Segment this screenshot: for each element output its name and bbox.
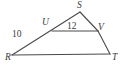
measure-label-uv: 12 (67, 22, 77, 32)
vertex-label-t: T (112, 53, 117, 63)
segment-SV (80, 12, 98, 31)
vertex-label-v: V (98, 23, 104, 33)
vertex-label-s: S (77, 1, 82, 11)
vertex-label-u: U (42, 18, 49, 28)
segment-VT (98, 31, 110, 54)
measure-label-ru: 10 (12, 30, 22, 40)
geometry-figure: S U V R T 12 10 (0, 0, 126, 68)
vertex-label-r: R (5, 53, 11, 63)
segment-RT (12, 54, 110, 55)
